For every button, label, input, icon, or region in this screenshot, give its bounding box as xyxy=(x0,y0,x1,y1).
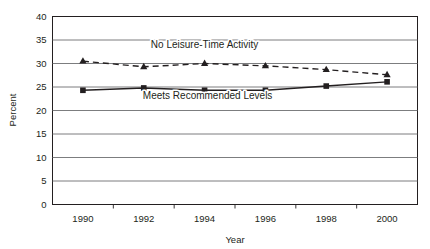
y-tick-label: 0 xyxy=(41,199,46,210)
x-tick-label: 1992 xyxy=(133,213,154,224)
series-annotation: Meets Recommended LevelsMeets Recommende… xyxy=(143,90,273,101)
data-point-square xyxy=(384,79,390,85)
y-tick-label: 15 xyxy=(36,128,47,139)
series-annotation: No Leisure-Time ActivityNo Leisure-Time … xyxy=(151,39,258,50)
series-annotation-label: No Leisure-Time Activity xyxy=(151,39,258,50)
line-chart: 0510152025303540 19901992199419961998200… xyxy=(0,0,430,249)
x-tick-label: 1996 xyxy=(255,213,276,224)
x-tick-label: 1990 xyxy=(72,213,93,224)
series-annotation-label: Meets Recommended Levels xyxy=(143,90,273,101)
y-tick-label: 10 xyxy=(36,152,47,163)
y-tick-label: 35 xyxy=(36,34,47,45)
y-tick-label: 30 xyxy=(36,58,47,69)
y-tick-label: 40 xyxy=(36,11,47,22)
chart-page: 0510152025303540 19901992199419961998200… xyxy=(0,0,430,249)
y-tick-label: 25 xyxy=(36,81,47,92)
x-tick-label: 1994 xyxy=(194,213,215,224)
x-axis-title: Year xyxy=(225,234,244,245)
y-tick-label: 5 xyxy=(41,175,46,186)
data-point-square xyxy=(80,87,86,93)
y-axis-title: Percent xyxy=(7,93,18,126)
x-tick-label: 2000 xyxy=(377,213,398,224)
data-point-square xyxy=(323,83,329,89)
y-tick-label: 20 xyxy=(36,105,47,116)
x-tick-label: 1998 xyxy=(316,213,337,224)
